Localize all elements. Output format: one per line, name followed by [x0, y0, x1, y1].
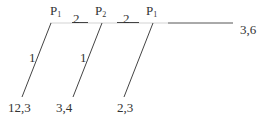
endpoint-bottom-1: 12,3 — [8, 101, 31, 114]
diagonal-1 — [22, 23, 51, 97]
endpoint-right: 3,6 — [240, 23, 256, 36]
node-p2: P2 — [95, 4, 106, 19]
edge-label-diag-1: 1 — [29, 51, 36, 64]
node-p1-first: P1 — [50, 4, 61, 19]
endpoint-bottom-2: 3,4 — [56, 101, 72, 114]
edge-label-top-2: 2 — [123, 12, 130, 25]
endpoint-bottom-3: 2,3 — [117, 101, 133, 114]
diagonal-2 — [73, 23, 102, 97]
edge-label-top-1: 2 — [73, 12, 80, 25]
edge-label-diag-2: 1 — [80, 51, 87, 64]
diagonal-3 — [124, 23, 153, 97]
node-p1-second: P1 — [146, 4, 157, 19]
pipe-network-diagram: P1 P2 P1 2 2 1 1 3,6 12,3 3,4 2,3 — [0, 0, 265, 129]
